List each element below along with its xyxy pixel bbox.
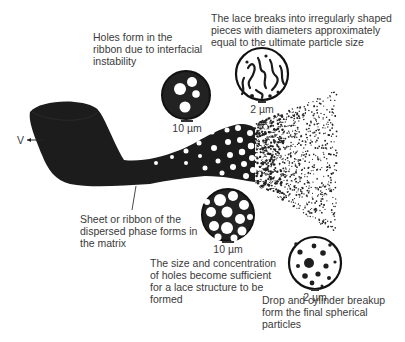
scale-label: 2 µm bbox=[303, 291, 327, 303]
scale-label: 10 µm bbox=[172, 122, 201, 134]
velocity-arrowhead bbox=[27, 138, 31, 142]
caption-holes: Holes form in the ribbon due to interfac… bbox=[93, 31, 202, 67]
inset-lace-breakup bbox=[236, 48, 288, 100]
caption-ribbon: Sheet or ribbon of the dispersed phase f… bbox=[80, 213, 197, 249]
scale-bar-lace-breakup: 2 µm bbox=[240, 101, 284, 115]
caption-lace-breakup: The lace breaks into irregularly shaped … bbox=[211, 12, 392, 48]
ribbon-leader-line bbox=[132, 186, 136, 210]
scale-bar-holes: 10 µm bbox=[165, 120, 209, 134]
caption-lace-structure: The size and concentration of holes beco… bbox=[150, 257, 276, 305]
scale-label: 2 µm bbox=[250, 103, 274, 115]
inset-spherical-drops bbox=[289, 237, 341, 289]
inset-lace-structure bbox=[202, 189, 254, 242]
scale-bar-lace-structure: 10 µm bbox=[206, 241, 250, 255]
scale-bar-spheres: 2 µm bbox=[293, 289, 337, 303]
velocity-label: V bbox=[17, 134, 24, 146]
inset-holes bbox=[162, 71, 210, 119]
scale-label: 10 µm bbox=[213, 243, 242, 255]
